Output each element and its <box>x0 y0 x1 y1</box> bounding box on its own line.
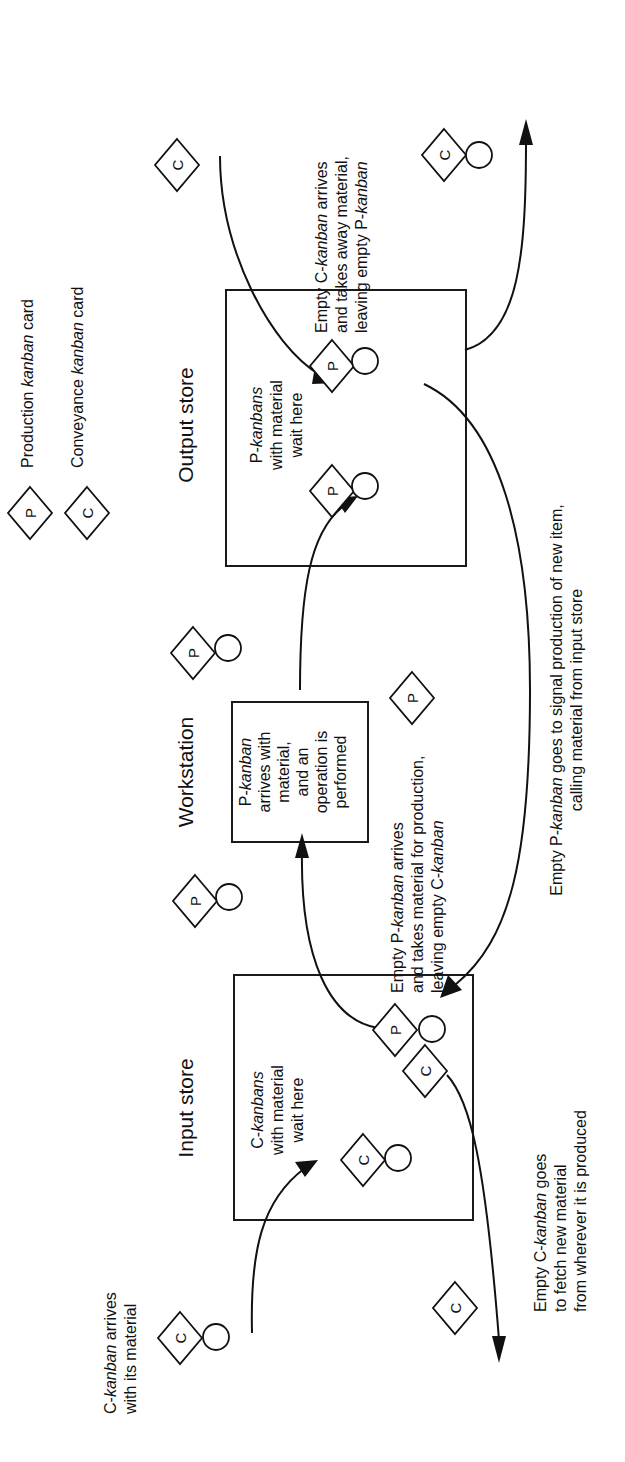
arrow-input-to-workstation <box>302 850 378 1028</box>
legend-conveyance-card-icon: C <box>65 487 109 539</box>
kanban-flow-diagram: P Production kanban card C Conveyance ka… <box>0 0 625 1462</box>
annotation-empty-p-takes-material: Empty P-kanban arrives and takes materia… <box>389 756 446 993</box>
svg-text:P: P <box>185 648 202 658</box>
input-store-title: Input store <box>174 1058 197 1157</box>
workstation-description: P-kanban arrives with material, and an o… <box>237 731 349 814</box>
svg-text:P: P <box>324 486 341 496</box>
workstation-title: Workstation <box>174 717 197 828</box>
svg-text:leaving empty C-kanban: leaving empty C-kanban <box>429 820 446 993</box>
material-icon <box>215 635 241 661</box>
svg-text:P-kanban: P-kanban <box>237 738 254 807</box>
arrow-c-arrives-to-input <box>252 1168 305 1333</box>
arrowhead <box>519 119 533 145</box>
svg-text:C-kanban arrives: C-kanban arrives <box>102 1292 119 1414</box>
svg-text:and takes away material,: and takes away material, <box>333 156 350 333</box>
svg-text:Empty C-kanban goes: Empty C-kanban goes <box>532 1154 549 1312</box>
legend-production-label: Production kanban card <box>19 299 36 468</box>
input-c-kanban-with-material: C <box>341 1134 411 1186</box>
annotation-empty-p-signal: Empty P-kanban goes to signal production… <box>548 504 585 895</box>
arrow-workstation-to-output <box>300 505 345 690</box>
material-icon <box>216 884 242 910</box>
input-p-kanban-with-material: P <box>373 1004 445 1056</box>
arrow-empty-c-to-output <box>220 156 320 375</box>
annotation-c-arrives: C-kanban arrives with its material <box>102 1292 139 1415</box>
svg-text:Empty P-kanban goes to signal: Empty P-kanban goes to signal production… <box>548 504 565 895</box>
svg-text:from wherever it is produced: from wherever it is produced <box>572 1110 589 1312</box>
svg-text:and an: and an <box>294 748 311 797</box>
material-icon <box>352 473 378 499</box>
empty-p-kanban-travelling: P <box>390 672 434 724</box>
c-kanban-with-material-arriving: C <box>158 1312 229 1364</box>
svg-text:P: P <box>324 361 341 371</box>
output-p-kanban-with-material-1: P <box>310 340 378 392</box>
svg-text:C: C <box>355 1154 372 1165</box>
svg-text:wait here: wait here <box>289 1077 306 1143</box>
arrow-output-to-away <box>465 140 526 350</box>
svg-text:C: C <box>79 507 96 518</box>
svg-text:with its material: with its material <box>122 1304 139 1415</box>
p-kanban-with-material-to-output: P <box>171 627 241 679</box>
output-store-description: P-kanbans with material wait here <box>248 380 305 471</box>
material-icon <box>203 1324 229 1350</box>
svg-text:C: C <box>169 159 186 170</box>
output-store-title: Output store <box>174 367 197 483</box>
legend: P Production kanban card C Conveyance ka… <box>8 287 109 539</box>
svg-text:with material: with material <box>269 1065 286 1156</box>
svg-text:P: P <box>387 1025 404 1035</box>
svg-text:to fetch new material: to fetch new material <box>552 1164 569 1312</box>
arrowhead <box>295 833 309 858</box>
material-icon <box>419 1016 445 1042</box>
svg-text:P: P <box>22 508 39 518</box>
input-empty-c-kanban: C <box>403 1045 447 1097</box>
svg-text:C: C <box>436 149 453 160</box>
svg-text:P: P <box>187 896 204 906</box>
svg-text:P-kanbans: P-kanbans <box>248 387 265 464</box>
svg-text:P: P <box>404 693 421 703</box>
input-store-description: C-kanbans with material wait here <box>249 1065 306 1156</box>
svg-text:C: C <box>172 1332 189 1343</box>
legend-conveyance-label: Conveyance kanban card <box>69 287 86 468</box>
legend-production-card-icon: P <box>8 487 52 539</box>
svg-text:arrives with: arrives with <box>256 732 273 813</box>
material-icon <box>466 142 492 168</box>
p-kanban-with-material-to-workstation: P <box>173 875 242 927</box>
annotation-empty-c-fetch: Empty C-kanban goes to fetch new materia… <box>532 1110 589 1312</box>
c-kanban-with-material-outgoing: C <box>422 129 492 181</box>
arrowhead <box>492 1336 506 1363</box>
svg-text:with material: with material <box>268 380 285 471</box>
empty-c-kanban-leaving: C <box>433 1282 477 1334</box>
svg-text:Empty P-kanban arrives: Empty P-kanban arrives <box>389 822 406 993</box>
svg-text:performed: performed <box>332 736 349 809</box>
svg-text:and takes material for product: and takes material for production, <box>409 756 426 993</box>
svg-text:C: C <box>447 1302 464 1313</box>
svg-text:leaving empty P-kanban: leaving empty P-kanban <box>353 161 370 333</box>
svg-text:calling material from input st: calling material from input store <box>568 589 585 811</box>
svg-text:material,: material, <box>275 741 292 802</box>
material-icon <box>385 1145 411 1171</box>
svg-text:Empty C-kanban arrives: Empty C-kanban arrives <box>313 161 330 333</box>
empty-c-kanban-incoming: C <box>155 139 199 191</box>
svg-text:wait here: wait here <box>288 392 305 458</box>
svg-text:C: C <box>417 1065 434 1076</box>
svg-text:C-kanbans: C-kanbans <box>249 1071 266 1148</box>
annotation-empty-c-takes-away: Empty C-kanban arrives and takes away ma… <box>313 156 370 333</box>
svg-text:operation is: operation is <box>313 731 330 814</box>
material-icon <box>352 348 378 374</box>
